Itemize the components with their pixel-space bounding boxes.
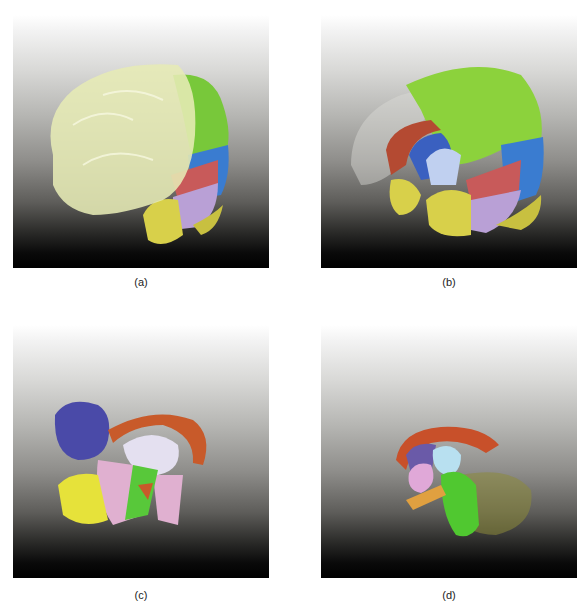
panel-label-d: (d) [321,589,577,601]
figure-panel-c [13,325,269,578]
brain-render-c [13,325,269,578]
figure-panel-a [13,15,269,268]
panel-label-c: (c) [13,589,269,601]
figure-panel-d [321,325,577,578]
brain-render-d [321,325,577,578]
panel-label-b: (b) [321,276,577,288]
figure-panel-b [321,15,577,268]
brain-render-a [13,15,269,268]
brain-render-b [321,15,577,268]
panel-label-a: (a) [13,276,269,288]
